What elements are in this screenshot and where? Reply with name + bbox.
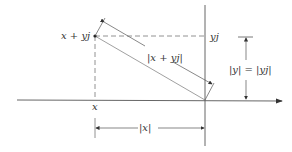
- magnitude-dimension-line-a: [104, 22, 145, 46]
- vector-line: [95, 36, 205, 100]
- magnitude-label: |x + yj|: [147, 52, 183, 64]
- magnitude-dimension-line-b: [173, 62, 212, 84]
- complex-plane-diagram: |x + yj| x + yj yj x |y| = |yj| |x|: [0, 0, 292, 152]
- real-axis: [17, 100, 282, 101]
- magnitude-extension-end: [205, 83, 214, 100]
- magnitude-extension-start: [95, 18, 105, 36]
- imag-magnitude-label: |y| = |yj|: [229, 64, 272, 76]
- real-magnitude-label: |x|: [139, 122, 151, 134]
- point-label: x + yj: [61, 30, 90, 41]
- real-projection-label: x: [92, 101, 98, 112]
- imag-projection-label: yj: [209, 31, 219, 42]
